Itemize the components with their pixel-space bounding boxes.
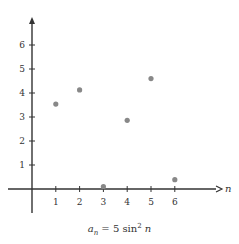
- scatter-plot: n123456123456: [0, 0, 239, 244]
- x-tick-label: 3: [101, 197, 107, 207]
- y-tick-label: 6: [19, 40, 25, 50]
- x-tick-label: 4: [124, 197, 130, 207]
- caption-end: n: [142, 223, 152, 234]
- x-tick-label: 5: [148, 197, 154, 207]
- data-point: [53, 101, 58, 106]
- x-tick-label: 6: [172, 197, 178, 207]
- data-point: [77, 87, 82, 92]
- caption-mid: = 5 sin: [98, 223, 137, 234]
- data-point: [101, 184, 106, 189]
- y-tick-label: 1: [19, 160, 25, 170]
- data-point: [148, 76, 153, 81]
- x-axis-label: n: [225, 183, 231, 194]
- y-tick-label: 5: [19, 64, 25, 74]
- x-axis-arrow-icon: [216, 186, 222, 192]
- axes: n123456123456: [8, 17, 231, 213]
- data-point: [125, 118, 130, 123]
- data-point: [172, 177, 177, 182]
- y-tick-label: 2: [19, 136, 25, 146]
- y-tick-label: 4: [19, 88, 25, 98]
- x-tick-label: 2: [77, 197, 83, 207]
- y-tick-label: 3: [19, 112, 25, 122]
- chart-caption: an = 5 sin2 n: [0, 222, 239, 237]
- data-points: [53, 76, 177, 189]
- x-tick-label: 1: [53, 197, 59, 207]
- y-axis-arrow-icon: [29, 17, 35, 24]
